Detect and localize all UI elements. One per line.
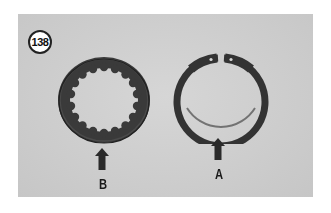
arrow-up-icon bbox=[95, 148, 109, 174]
figure-number-badge: 138 bbox=[28, 30, 52, 54]
figure-photo-panel: 138 bbox=[18, 14, 313, 197]
arrow-up-icon bbox=[211, 138, 225, 164]
splined-ring-icon bbox=[56, 55, 152, 145]
part-label-b: B bbox=[99, 176, 107, 192]
figure-number: 138 bbox=[32, 36, 49, 48]
circlip-icon bbox=[173, 52, 269, 144]
part-label-a: A bbox=[215, 166, 223, 182]
